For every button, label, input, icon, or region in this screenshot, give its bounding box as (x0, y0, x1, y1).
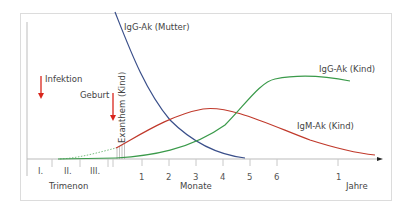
x-axis-arrow-icon (377, 157, 383, 161)
igg-kind-label: IgG-Ak (Kind) (319, 64, 375, 74)
tri-tick-3: III. (90, 166, 100, 176)
geburt-arrow-icon (110, 115, 116, 121)
infektion-arrow-icon (38, 93, 44, 99)
month-tick-5: 5 (247, 172, 252, 182)
month-ticks (142, 159, 338, 166)
igg-kind-prenatal-curve (60, 148, 116, 159)
monate-label: Monate (180, 181, 212, 191)
tri-tick-2: II. (64, 166, 72, 176)
igm-kind-label: IgM-Ak (Kind) (297, 121, 354, 131)
igg-mutter-label: IgG-Ak (Mutter) (124, 22, 190, 32)
jahre-label: Jahre (345, 181, 368, 191)
year-tick-1: 1 (336, 172, 341, 182)
exanthem-label: Exanthem (Kind) (117, 72, 127, 143)
trimenon-label: Trimenon (48, 181, 88, 191)
trimester-ticks (52, 159, 113, 167)
igg-kind-curve (116, 76, 350, 158)
igg-mutter-curve (115, 12, 245, 158)
infektion-label: Infektion (45, 74, 82, 84)
month-tick-1: 1 (139, 172, 144, 182)
month-tick-2: 2 (166, 172, 171, 182)
tri-tick-1: I. (38, 166, 43, 176)
chart-svg: IgG-Ak (Mutter) IgG-Ak (Kind) IgM-Ak (Ki… (0, 0, 405, 212)
igm-kind-curve (116, 108, 375, 155)
geburt-label: Geburt (80, 90, 110, 100)
month-tick-6: 6 (274, 172, 279, 182)
month-tick-4: 4 (220, 172, 225, 182)
